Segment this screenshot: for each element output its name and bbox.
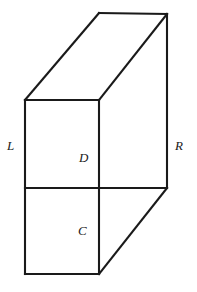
label-D: D <box>79 151 88 164</box>
label-C: C <box>78 224 87 237</box>
figure-container: L R D C <box>0 0 197 292</box>
edge-top-back-horizontal <box>99 13 167 14</box>
label-R: R <box>175 139 183 152</box>
box-diagram <box>0 0 197 292</box>
label-L: L <box>7 139 14 152</box>
